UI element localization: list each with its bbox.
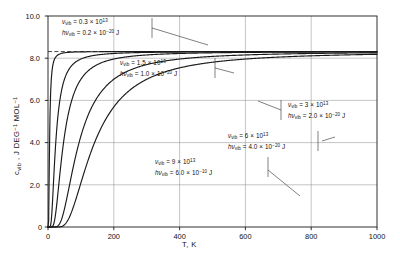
- y-tick-label: 0: [38, 223, 42, 232]
- annotation-frequency-line: νvib = 3 × 1013: [288, 100, 345, 111]
- chart-background: [0, 0, 400, 257]
- x-tick-label: 600: [239, 232, 251, 241]
- y-tick-label: 2.0: [30, 181, 40, 190]
- curve-annotation-4: νvib = 6 × 1013hνvib = 4.0 × 10−20 J: [228, 131, 285, 154]
- annotation-frequency-line: νvib = 6 × 1013: [228, 131, 285, 142]
- annotation-energy-line: hνvib = 0.2 × 10−20 J: [62, 28, 119, 39]
- curve-annotation-5: νvib = 9 × 1013hνvib = 6.0 × 10−10 J: [155, 157, 212, 180]
- y-tick-label: 10.0: [26, 12, 40, 21]
- annotation-frequency-line: νvib = 9 × 1013: [155, 157, 212, 168]
- y-axis-title: cvib , J DEG−1 MOL−1: [12, 96, 22, 175]
- annotation-frequency-line: νvib = 0.3 × 1013: [62, 17, 119, 28]
- x-tick-label: 1000: [369, 232, 385, 241]
- annotation-energy-line: hνvib = 6.0 × 10−10 J: [155, 168, 212, 179]
- y-tick-label: 4.0: [30, 138, 40, 147]
- annotation-frequency-line: νvib = 1.5 × 1013: [120, 58, 177, 69]
- y-tick-label: 8.0: [30, 54, 40, 63]
- curve-annotation-2: νvib = 1.5 × 1013hνvib = 1.0 × 10−20 J: [120, 58, 177, 81]
- y-tick-label: 6.0: [30, 96, 40, 105]
- curve-annotation-1: νvib = 0.3 × 1013hνvib = 0.2 × 10−20 J: [62, 17, 119, 40]
- chart-canvas: [0, 0, 400, 257]
- x-tick-label: 0: [46, 232, 50, 241]
- annotation-energy-line: hνvib = 1.0 × 10−20 J: [120, 69, 177, 80]
- curve-annotation-3: νvib = 3 × 1013hνvib = 2.0 × 10−20 J: [288, 100, 345, 123]
- x-tick-label: 200: [108, 232, 120, 241]
- annotation-energy-line: hνvib = 4.0 × 10−20 J: [228, 142, 285, 153]
- x-tick-label: 800: [305, 232, 317, 241]
- annotation-energy-line: hνvib = 2.0 × 10−20 J: [288, 111, 345, 122]
- x-axis-title: T, K: [182, 240, 197, 249]
